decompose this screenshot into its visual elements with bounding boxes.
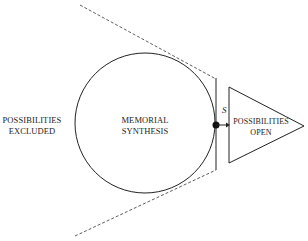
dashed-boundary-lower (75, 170, 216, 236)
open-line-2: OPEN (230, 127, 292, 138)
dashed-boundary-upper (80, 5, 216, 79)
open-line-1: POSSIBILITIES (230, 116, 292, 127)
memorial-synthesis-label: MEMORIAL SYNTHESIS (115, 115, 175, 137)
center-line-2: SYNTHESIS (115, 126, 175, 137)
excluded-line-1: POSSIBILITIES (2, 115, 62, 126)
possibilities-excluded-label: POSSIBILITIES EXCLUDED (2, 115, 62, 137)
center-line-1: MEMORIAL (115, 115, 175, 126)
excluded-line-2: EXCLUDED (2, 126, 62, 137)
possibilities-open-label: POSSIBILITIES OPEN (230, 116, 292, 138)
point-s-label: S (222, 105, 227, 115)
